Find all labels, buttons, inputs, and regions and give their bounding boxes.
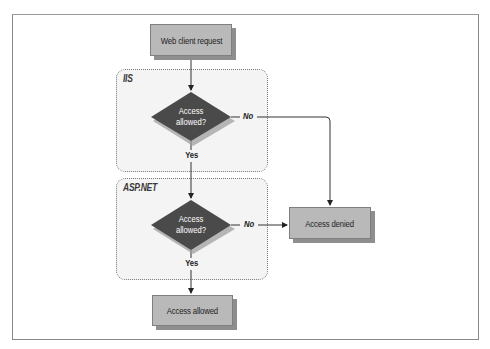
edge-label-aspnet-yes: Yes <box>185 258 198 268</box>
node-access-denied: Access denied <box>289 207 371 239</box>
edge-label-iis-yes: Yes <box>185 150 198 160</box>
node-access-allowed: Access allowed <box>152 295 233 326</box>
node-web-client-request: Web client request <box>150 24 232 56</box>
edge-label-aspnet-no: No <box>244 219 254 229</box>
connectors-layer <box>0 0 490 349</box>
decision-label-iis: Access allowed? <box>166 106 217 128</box>
edge-label-iis-no: No <box>243 111 253 121</box>
edge-iis-no-to-denied <box>231 117 330 205</box>
decision-label-aspnet: Access allowed? <box>166 214 217 236</box>
